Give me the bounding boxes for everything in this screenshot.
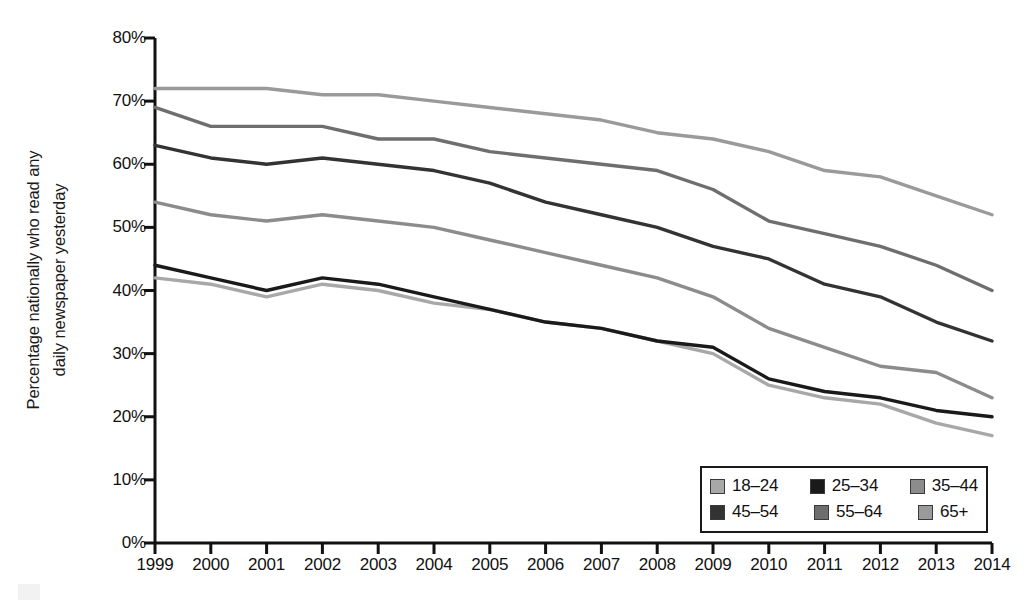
legend-row: 45–5455–6465+ (710, 499, 978, 525)
legend-label: 55–64 (836, 502, 882, 522)
x-axis-tick-label: 2012 (862, 555, 899, 575)
series-line (155, 202, 992, 398)
x-axis-tick-label: 2005 (471, 555, 508, 575)
legend-swatch-icon (710, 479, 725, 494)
x-axis-tick-label: 2001 (248, 555, 285, 575)
legend-item: 65+ (918, 502, 968, 522)
x-axis-tick-label: 2000 (192, 555, 229, 575)
legend-label: 45–54 (732, 502, 778, 522)
series-line (155, 265, 992, 417)
legend-label: 35–44 (932, 476, 978, 496)
x-axis-tick-label: 2006 (527, 555, 564, 575)
legend-label: 65+ (940, 502, 968, 522)
legend-swatch-icon (918, 505, 933, 520)
legend: 18–2425–3435–4445–5455–6465+ (700, 466, 988, 533)
legend-item: 45–54 (710, 502, 814, 522)
corner-artifact (18, 584, 40, 600)
legend-item: 55–64 (814, 502, 918, 522)
legend-item: 25–34 (810, 476, 910, 496)
line-chart: Percentage nationally who read any daily… (0, 0, 1034, 607)
x-axis-tick-label: 1999 (136, 555, 173, 575)
x-axis-tick-label: 2011 (807, 555, 843, 575)
series-line (155, 89, 992, 215)
legend-item: 18–24 (710, 476, 810, 496)
x-axis-tick-label: 2007 (583, 555, 620, 575)
x-axis-tick-label: 2013 (918, 555, 955, 575)
x-axis-tick-label: 2009 (694, 555, 731, 575)
x-axis-tick-label: 2002 (304, 555, 341, 575)
legend-row: 18–2425–3435–44 (710, 473, 978, 499)
legend-swatch-icon (710, 505, 725, 520)
legend-item: 35–44 (910, 476, 978, 496)
x-axis-tick-label: 2008 (639, 555, 676, 575)
legend-swatch-icon (814, 505, 829, 520)
legend-swatch-icon (810, 479, 825, 494)
x-axis-tick-label: 2010 (750, 555, 787, 575)
legend-label: 18–24 (732, 476, 778, 496)
x-axis-tick-label: 2003 (360, 555, 397, 575)
legend-swatch-icon (910, 479, 925, 494)
x-axis-tick-label: 2004 (415, 555, 452, 575)
series-line (155, 107, 992, 290)
x-axis-tick-label: 2014 (973, 555, 1010, 575)
series-line (155, 278, 992, 436)
legend-label: 25–34 (832, 476, 878, 496)
